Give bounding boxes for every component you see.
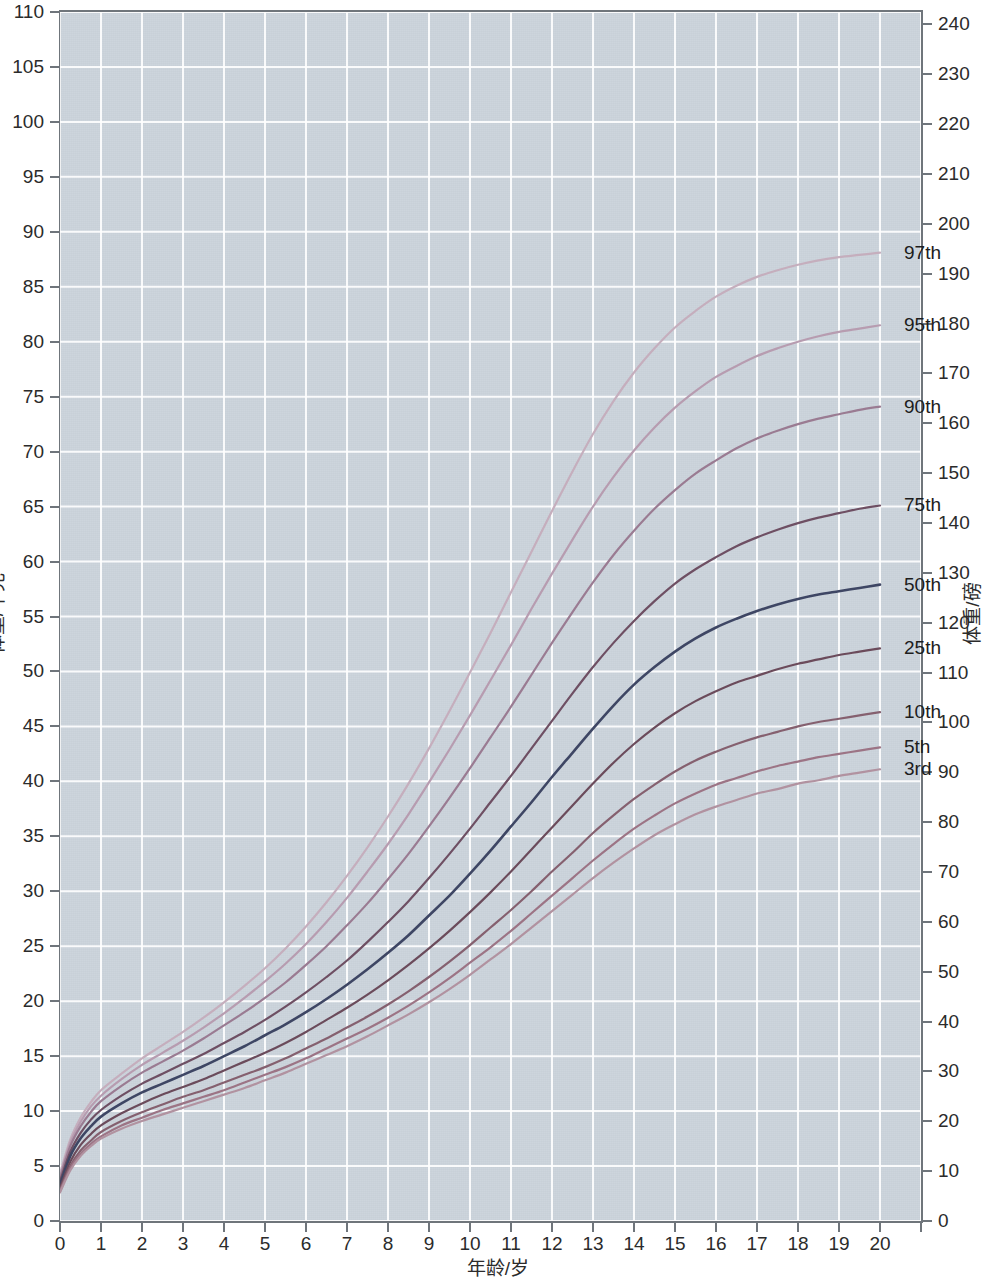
y-axis-right-tick <box>922 1021 932 1023</box>
percentile-label-75th: 75th <box>904 495 941 514</box>
y-axis-right-tick <box>922 123 932 125</box>
y-axis-right-tick <box>922 73 932 75</box>
x-axis-tick-label: 15 <box>655 1234 695 1253</box>
y-axis-left-tick-label: 50 <box>23 661 44 680</box>
x-axis-tick <box>469 1222 471 1232</box>
y-axis-right-tick-label: 230 <box>938 64 970 83</box>
y-axis-right-tick <box>922 422 932 424</box>
x-axis-tick <box>59 1222 61 1232</box>
percentile-curve-95th <box>60 325 880 1176</box>
x-axis-tick-label: 1 <box>81 1234 121 1253</box>
y-axis-right-tick-label: 40 <box>938 1012 959 1031</box>
y-axis-left-tick-label: 70 <box>23 442 44 461</box>
percentile-curve-5th <box>60 747 880 1191</box>
y-axis-left-tick-label: 85 <box>23 277 44 296</box>
x-axis-tick <box>223 1222 225 1232</box>
x-axis-tick-label: 10 <box>450 1234 490 1253</box>
y-axis-left-tick-label: 0 <box>33 1211 44 1230</box>
percentile-curve-10th <box>60 712 880 1190</box>
y-axis-left-tick <box>50 176 60 178</box>
percentile-label-97th: 97th <box>904 243 941 262</box>
y-axis-right-tick-label: 80 <box>938 812 959 831</box>
y-axis-left-tick-label: 95 <box>23 167 44 186</box>
plot-area <box>60 12 921 1221</box>
y-axis-right-tick-label: 70 <box>938 862 959 881</box>
y-axis-right-tick <box>922 273 932 275</box>
x-axis-tick-label: 18 <box>778 1234 818 1253</box>
x-axis-tick <box>264 1222 266 1232</box>
y-axis-left-tick <box>50 121 60 123</box>
y-axis-left-tick-label: 5 <box>33 1156 44 1175</box>
y-axis-right-tick-label: 240 <box>938 14 970 33</box>
y-axis-left-tick-label: 55 <box>23 607 44 626</box>
y-axis-left-tick-label: 110 <box>14 2 44 21</box>
y-axis-left-tick <box>50 11 60 13</box>
y-axis-left-tick-label: 65 <box>23 497 44 516</box>
y-axis-left-tick-label: 20 <box>23 991 44 1010</box>
y-axis-left-tick-label: 10 <box>23 1101 44 1120</box>
y-axis-right-title: 体重/磅 <box>957 582 984 644</box>
x-axis-tick-label: 5 <box>245 1234 285 1253</box>
y-axis-right-tick-label: 210 <box>938 164 970 183</box>
x-axis-tick-label: 11 <box>491 1234 531 1253</box>
y-axis-right-tick <box>922 622 932 624</box>
y-axis-left-tick <box>50 616 60 618</box>
y-axis-left-tick-label: 90 <box>23 222 44 241</box>
x-axis-tick-label: 14 <box>614 1234 654 1253</box>
y-axis-left-tick-label: 30 <box>23 881 44 900</box>
y-axis-right-tick <box>922 1070 932 1072</box>
x-axis-tick-label: 13 <box>573 1234 613 1253</box>
percentile-curves <box>60 12 921 1221</box>
y-axis-right-tick <box>922 921 932 923</box>
y-axis-right-tick <box>922 971 932 973</box>
y-axis-left-tick-label: 45 <box>23 716 44 735</box>
y-axis-right-tick <box>922 173 932 175</box>
y-axis-right-tick <box>922 1170 932 1172</box>
x-axis-tick <box>715 1222 717 1232</box>
y-axis-right-tick-label: 0 <box>938 1211 949 1230</box>
y-axis-right-line <box>921 10 923 1223</box>
x-axis-tick-label: 4 <box>204 1234 244 1253</box>
y-axis-left-tick <box>50 835 60 837</box>
y-axis-right-tick-label: 110 <box>938 663 968 682</box>
x-axis-tick-label: 20 <box>860 1234 900 1253</box>
y-axis-left-tick-label: 60 <box>23 552 44 571</box>
x-axis-tick-label: 3 <box>163 1234 203 1253</box>
y-axis-left-tick <box>50 1000 60 1002</box>
y-axis-right-tick-label: 190 <box>938 264 970 283</box>
y-axis-left-tick-label: 40 <box>23 771 44 790</box>
x-axis-tick-label: 9 <box>409 1234 449 1253</box>
y-axis-right-tick <box>922 23 932 25</box>
y-axis-right-tick-label: 20 <box>938 1111 959 1130</box>
y-axis-left-tick <box>50 1165 60 1167</box>
y-axis-right-tick-label: 170 <box>938 363 970 382</box>
y-axis-right-tick-label: 160 <box>938 413 970 432</box>
y-axis-left-tick <box>50 1055 60 1057</box>
x-axis-tick <box>551 1222 553 1232</box>
x-axis-tick <box>592 1222 594 1232</box>
x-axis-tick <box>305 1222 307 1232</box>
y-axis-left-tick-label: 105 <box>12 57 44 76</box>
x-axis-tick <box>346 1222 348 1232</box>
x-axis-tick-label: 2 <box>122 1234 162 1253</box>
y-axis-right-tick-label: 30 <box>938 1061 959 1080</box>
x-axis-tick <box>100 1222 102 1232</box>
y-axis-right-tick-label: 220 <box>938 114 970 133</box>
y-axis-left-tick-label: 75 <box>23 387 44 406</box>
y-axis-left-tick <box>50 451 60 453</box>
x-axis-tick <box>141 1222 143 1232</box>
y-axis-right-tick-label: 60 <box>938 912 959 931</box>
x-axis-tick <box>182 1222 184 1232</box>
y-axis-left-tick <box>50 396 60 398</box>
x-axis-title: 年龄/岁 <box>0 1253 996 1278</box>
percentile-curve-75th <box>60 505 880 1181</box>
y-axis-right-tick <box>922 372 932 374</box>
x-axis-tick <box>756 1222 758 1232</box>
y-axis-right-tick <box>922 522 932 524</box>
percentile-label-5th: 5th <box>904 737 930 756</box>
y-axis-right-tick-label: 90 <box>938 762 959 781</box>
x-axis-tick-label: 7 <box>327 1234 367 1253</box>
y-axis-left-tick <box>50 286 60 288</box>
percentile-curve-97th <box>60 253 880 1174</box>
y-axis-left-tick-label: 15 <box>23 1046 44 1065</box>
